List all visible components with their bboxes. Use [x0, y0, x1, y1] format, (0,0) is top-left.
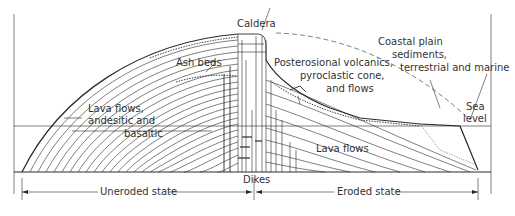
volcano-cross-section-diagram: Caldera Ash beds Lava flows, andesitic a… [0, 0, 515, 216]
label-posterosional-1: Posterosional volcanics, [274, 57, 393, 68]
label-uneroded-state: Uneroded state [100, 186, 177, 197]
label-eroded-state: Eroded state [337, 186, 401, 197]
dike-zone [224, 34, 282, 172]
label-lava-flows-left-2: andesitic and [88, 115, 155, 126]
label-posterosional-2: pyroclastic cone, [300, 70, 385, 81]
label-posterosional-3: and flows [326, 83, 374, 94]
label-level: level [463, 113, 487, 124]
label-coastal-1: Coastal plain [378, 36, 443, 47]
label-ash-beds: Ash beds [176, 57, 222, 68]
label-sea: Sea [466, 101, 485, 112]
label-lava-flows-left-1: Lava flows, [88, 103, 144, 114]
label-lava-flows-right: Lava flows [316, 143, 369, 154]
label-lava-flows-left-3: basaltic [124, 128, 163, 139]
label-caldera: Caldera [237, 18, 276, 29]
label-coastal-3: terrestrial and marine [400, 62, 509, 73]
label-coastal-2: sediments, [392, 49, 447, 60]
label-dikes: Dikes [243, 174, 270, 185]
